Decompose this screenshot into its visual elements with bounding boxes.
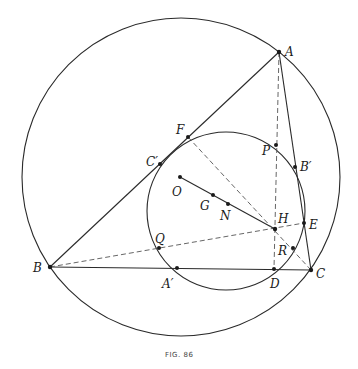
point-b — [48, 265, 52, 269]
point-n — [226, 202, 230, 206]
altitude-ad — [274, 52, 279, 269]
point-c — [309, 268, 313, 272]
label-c: C — [316, 267, 325, 281]
point-r — [291, 246, 295, 250]
label-f: F — [175, 123, 185, 137]
point-o — [178, 175, 182, 179]
label-n: N — [219, 209, 231, 223]
label-o: O — [172, 185, 182, 199]
point-b-prime — [293, 165, 297, 169]
altitude-be — [50, 223, 304, 267]
label-b: B — [32, 261, 42, 275]
figure-canvas: A B C O G N H F C′ P B′ E R Q A′ D FIG. … — [0, 0, 358, 369]
label-r: R — [277, 244, 287, 258]
point-h — [273, 227, 277, 231]
label-h: H — [277, 212, 289, 226]
point-e — [302, 221, 306, 225]
label-a-prime: A′ — [161, 277, 174, 291]
point-p — [274, 143, 278, 147]
label-d: D — [269, 277, 280, 291]
point-g — [211, 193, 215, 197]
figure-caption: FIG. 86 — [165, 351, 193, 359]
label-e: E — [308, 218, 318, 232]
side-bc — [50, 267, 311, 270]
point-q — [157, 246, 161, 250]
point-a — [277, 50, 281, 54]
label-q: Q — [155, 232, 165, 246]
label-b-prime: B′ — [299, 160, 312, 174]
label-g: G — [200, 199, 210, 213]
point-c-prime — [158, 162, 162, 166]
label-a: A — [284, 45, 294, 59]
point-d — [272, 267, 276, 271]
label-p: P — [261, 144, 271, 158]
point-f — [186, 135, 190, 139]
label-c-prime: C′ — [146, 155, 158, 169]
point-a-prime — [175, 266, 179, 270]
